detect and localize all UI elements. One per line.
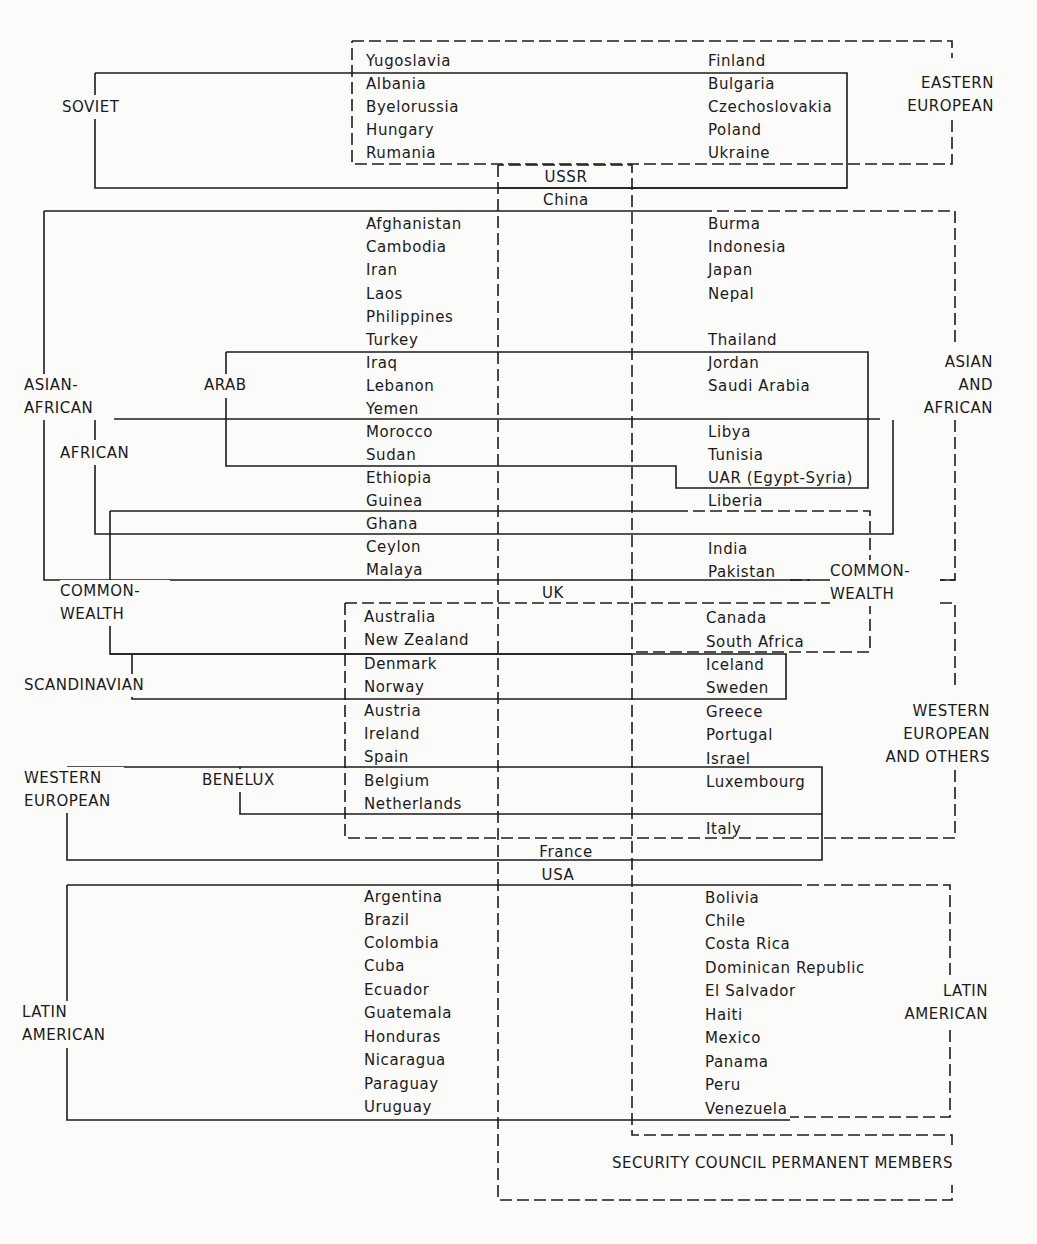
country-label: Costa Rica	[705, 935, 790, 953]
country-label: Bolivia	[705, 889, 759, 907]
country-label: Sudan	[366, 446, 416, 464]
group-label-line: EUROPEAN	[880, 95, 994, 118]
group-label-line: SCANDINAVIAN	[24, 674, 174, 697]
country-label: Malaya	[366, 561, 423, 579]
permanent-member-label: USSR	[526, 168, 606, 186]
country-label: Cambodia	[366, 238, 447, 256]
country-label: Hungary	[366, 121, 434, 139]
group-label-line: AND OTHERS	[860, 746, 990, 769]
country-label: Ukraine	[708, 144, 770, 162]
group-label-line: AFRICAN	[880, 397, 993, 420]
group-label-asian-and-african-group: ASIANANDAFRICAN	[880, 351, 993, 420]
country-label: Canada	[706, 609, 767, 627]
country-label: Saudi Arabia	[708, 377, 810, 395]
group-label-line: LATIN	[880, 980, 988, 1003]
country-label: Luxembourg	[706, 773, 806, 791]
country-label: Morocco	[366, 423, 433, 441]
country-label: Israel	[706, 750, 751, 768]
country-label: Belgium	[364, 772, 430, 790]
group-label-line: ARAB	[204, 374, 264, 397]
country-label: Burma	[708, 215, 761, 233]
country-label: Spain	[364, 748, 409, 766]
group-label-line: AMERICAN	[22, 1024, 122, 1047]
bloc-outline-2	[226, 352, 868, 488]
country-label: Brazil	[364, 911, 409, 929]
group-label-line: EUROPEAN	[860, 723, 990, 746]
country-label: Honduras	[364, 1028, 441, 1046]
country-label: Chile	[705, 912, 746, 930]
country-label: India	[708, 540, 748, 558]
country-label: Guatemala	[364, 1004, 452, 1022]
country-label: Cuba	[364, 957, 405, 975]
country-label: Ecuador	[364, 981, 430, 999]
country-label: Ghana	[366, 515, 418, 533]
country-label: Libya	[708, 423, 751, 441]
country-label: Nicaragua	[364, 1051, 446, 1069]
group-label-line: BENELUX	[202, 769, 282, 792]
group-label-line: AFRICAN	[24, 397, 114, 420]
country-label: Laos	[366, 285, 403, 303]
country-label: Yugoslavia	[366, 52, 451, 70]
country-label: Greece	[706, 703, 763, 721]
country-label: El Salvador	[705, 982, 796, 1000]
group-label-scandinavian: SCANDINAVIAN	[24, 674, 174, 697]
country-label: Nepal	[708, 285, 754, 303]
country-label: Iraq	[366, 354, 398, 372]
country-label: Philippines	[366, 308, 453, 326]
country-label: Dominican Republic	[705, 959, 865, 977]
country-label: South Africa	[706, 633, 804, 651]
country-label: Uruguay	[364, 1098, 432, 1116]
country-label: Panama	[705, 1053, 769, 1071]
group-label-line: EASTERN	[880, 72, 994, 95]
group-label-soviet: SOVIET	[62, 96, 142, 119]
group-label-western-european-and-others: WESTERNEUROPEANAND OTHERS	[860, 700, 990, 769]
country-label: Lebanon	[366, 377, 434, 395]
country-label: Sweden	[706, 679, 769, 697]
permanent-member-label: China	[526, 191, 606, 209]
country-label: Mexico	[705, 1029, 761, 1047]
group-label-african: AFRICAN	[60, 442, 150, 465]
country-label: Paraguay	[364, 1075, 439, 1093]
group-label-line: SECURITY COUNCIL PERMANENT MEMBERS	[612, 1152, 992, 1175]
permanent-member-label: France	[526, 843, 606, 861]
group-label-line: WEALTH	[60, 603, 170, 626]
group-label-line: WESTERN	[860, 700, 990, 723]
group-label-line: AFRICAN	[60, 442, 150, 465]
group-label-security-council: SECURITY COUNCIL PERMANENT MEMBERS	[612, 1152, 992, 1175]
group-label-line: ASIAN	[880, 351, 993, 374]
country-label: Poland	[708, 121, 762, 139]
country-label: Guinea	[366, 492, 423, 510]
country-label: Byelorussia	[366, 98, 459, 116]
country-label: Haiti	[705, 1006, 743, 1024]
group-label-line: COMMON-	[60, 580, 170, 603]
group-label-line: WESTERN	[24, 767, 124, 790]
bloc-outline-1	[44, 211, 955, 580]
country-label: Iran	[366, 261, 398, 279]
country-label: Yemen	[366, 400, 419, 418]
country-label: Afghanistan	[366, 215, 462, 233]
group-label-latin-american-group: LATINAMERICAN	[880, 980, 988, 1026]
country-label: Norway	[364, 678, 425, 696]
country-label: Finland	[708, 52, 766, 70]
group-label-line: EUROPEAN	[24, 790, 124, 813]
group-label-line: COMMON-	[830, 560, 940, 583]
country-label: Bulgaria	[708, 75, 775, 93]
country-label: Japan	[708, 261, 753, 279]
group-label-line: AMERICAN	[880, 1003, 988, 1026]
country-label: Liberia	[708, 492, 763, 510]
country-label: Ireland	[364, 725, 420, 743]
country-label: Jordan	[708, 354, 759, 372]
group-label-line: WEALTH	[830, 583, 940, 606]
group-label-benelux: BENELUX	[202, 769, 282, 792]
country-label: Venezuela	[705, 1100, 787, 1118]
group-label-line: LATIN	[22, 1001, 122, 1024]
country-label: Tunisia	[708, 446, 763, 464]
group-label-latin-american-bloc: LATINAMERICAN	[22, 1001, 122, 1047]
bloc-outline-5	[110, 654, 786, 699]
group-label-line: ASIAN-	[24, 374, 114, 397]
group-label-line: AND	[880, 374, 993, 397]
group-label-line: SOVIET	[62, 96, 142, 119]
group-label-arab: ARAB	[204, 374, 264, 397]
country-label: New Zealand	[364, 631, 469, 649]
group-label-eastern-european: EASTERNEUROPEAN	[880, 72, 994, 118]
